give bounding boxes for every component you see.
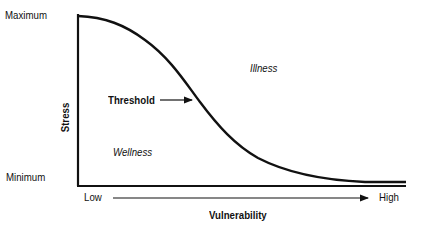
y-axis-min-label: Minimum (6, 172, 45, 183)
x-axis-title: Vulnerability (209, 210, 267, 221)
illness-region-label: Illness (250, 63, 277, 74)
y-axis-max-label: Maximum (5, 10, 47, 21)
x-axis-high-label: High (379, 192, 399, 203)
x-axis-low-label: Low (84, 192, 102, 203)
threshold-label: Threshold (108, 95, 155, 106)
wellness-region-label: Wellness (113, 147, 152, 158)
y-axis-title: Stress (60, 100, 71, 135)
